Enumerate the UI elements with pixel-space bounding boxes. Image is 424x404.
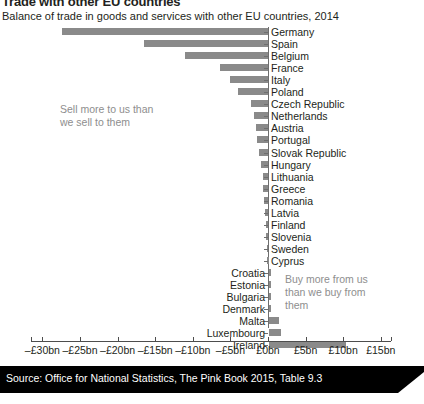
category-label-belgium: Belgium: [271, 51, 309, 62]
axis-tick: [306, 337, 307, 341]
chart-subtitle: Balance of trade in goods and services w…: [2, 10, 339, 22]
table-row: Italy: [0, 75, 424, 87]
axis-tick-label: –£30bn: [25, 344, 60, 356]
bar-denmark: [269, 305, 271, 312]
axis-tick: [193, 337, 194, 341]
bar-spain: [144, 40, 268, 47]
table-row: Romania: [0, 196, 424, 208]
category-tick: [264, 237, 268, 238]
bar-luxembourg: [269, 329, 281, 336]
axis-tick-label: –£20bn: [100, 344, 135, 356]
category-label-cyprus: Cyprus: [271, 256, 304, 267]
category-label-estonia: Estonia: [230, 280, 265, 291]
table-row: Latvia: [0, 208, 424, 220]
axis-end-cap: [31, 337, 32, 341]
axis-tick: [268, 337, 269, 341]
table-row: Slovenia: [0, 232, 424, 244]
annotation-buy-more: Buy more from us than we buy from them: [285, 273, 368, 312]
table-row: Sweden: [0, 244, 424, 256]
axis-end-cap: [391, 337, 392, 341]
category-tick: [264, 44, 268, 45]
category-tick: [264, 189, 268, 190]
table-row: Cyprus: [0, 256, 424, 268]
chart-page: Trade with other EU countries Balance of…: [0, 0, 424, 404]
category-label-finland: Finland: [271, 220, 305, 231]
category-label-italy: Italy: [271, 75, 290, 86]
category-tick: [264, 32, 268, 33]
bar-italy: [230, 76, 268, 83]
axis-tick-label: –£10bn: [175, 344, 210, 356]
category-tick: [264, 56, 268, 57]
table-row: Slovak Republic: [0, 148, 424, 160]
category-label-sweden: Sweden: [271, 244, 309, 255]
category-label-hungary: Hungary: [271, 160, 311, 171]
axis-tick-label: –£5bn: [216, 344, 245, 356]
axis-tick-label: –£15bn: [138, 344, 173, 356]
category-label-germany: Germany: [271, 27, 314, 38]
table-row: Lithuania: [0, 172, 424, 184]
axis-tick-label: £15bn: [366, 344, 395, 356]
axis-tick: [118, 337, 119, 341]
axis-tick: [381, 337, 382, 341]
category-tick: [264, 249, 268, 250]
category-tick: [264, 165, 268, 166]
category-tick: [264, 68, 268, 69]
category-tick: [264, 225, 268, 226]
axis-tick: [155, 337, 156, 341]
category-label-lithuania: Lithuania: [271, 172, 314, 183]
axis-tick-label: £0bn: [256, 344, 279, 356]
table-row: Hungary: [0, 160, 424, 172]
table-row: Luxembourg: [0, 328, 424, 340]
category-label-czech-republic: Czech Republic: [271, 99, 345, 110]
table-row: Poland: [0, 87, 424, 99]
axis-tick: [230, 337, 231, 341]
bar-croatia: [269, 269, 271, 276]
table-row: Greece: [0, 184, 424, 196]
x-axis: –£30bn–£25bn–£20bn–£15bn–£10bn–£5bn£0bn£…: [0, 341, 424, 363]
category-tick: [264, 116, 268, 117]
bar-bulgaria: [269, 293, 271, 300]
category-tick: [264, 104, 268, 105]
category-label-slovenia: Slovenia: [271, 232, 311, 243]
bar-belgium: [185, 52, 268, 59]
category-label-latvia: Latvia: [271, 208, 299, 219]
category-tick: [264, 201, 268, 202]
bar-germany: [62, 28, 268, 35]
axis-tick-label: £10bn: [329, 344, 358, 356]
category-label-spain: Spain: [271, 39, 298, 50]
category-tick: [264, 92, 268, 93]
category-tick: [264, 261, 268, 262]
table-row: Portugal: [0, 135, 424, 147]
category-label-poland: Poland: [271, 87, 304, 98]
category-label-netherlands: Netherlands: [271, 111, 328, 122]
axis-tick-label: –£25bn: [62, 344, 97, 356]
category-label-romania: Romania: [271, 196, 313, 207]
axis-tick: [42, 337, 43, 341]
category-label-denmark: Denmark: [222, 304, 265, 315]
table-row: Belgium: [0, 51, 424, 63]
axis-tick: [80, 337, 81, 341]
x-axis-line: [31, 341, 391, 342]
bar-estonia: [269, 281, 271, 288]
category-label-greece: Greece: [271, 184, 305, 195]
category-tick: [264, 177, 268, 178]
table-row: Spain: [0, 39, 424, 51]
axis-tick-label: £5bn: [294, 344, 317, 356]
category-label-croatia: Croatia: [231, 268, 265, 279]
category-label-slovak-republic: Slovak Republic: [271, 148, 346, 159]
category-label-malta: Malta: [239, 316, 265, 327]
source-text: Source: Office for National Statistics, …: [6, 372, 322, 384]
category-tick: [264, 153, 268, 154]
annotation-sell-more: Sell more to us than we sell to them: [60, 103, 153, 129]
bar-france: [220, 64, 268, 71]
category-tick: [264, 128, 268, 129]
axis-tick: [343, 337, 344, 341]
category-label-luxembourg: Luxembourg: [207, 328, 265, 339]
category-label-austria: Austria: [271, 123, 304, 134]
table-row: Germany: [0, 27, 424, 39]
category-label-bulgaria: Bulgaria: [226, 292, 265, 303]
category-tick: [264, 213, 268, 214]
category-tick: [264, 140, 268, 141]
category-tick: [264, 80, 268, 81]
category-label-france: France: [271, 63, 304, 74]
